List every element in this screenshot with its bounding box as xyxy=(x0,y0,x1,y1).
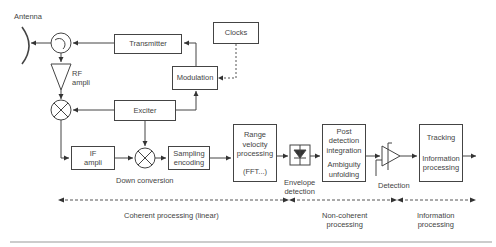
transmitter-box: Transmitter xyxy=(114,34,182,54)
down-conversion-label: Down conversion xyxy=(116,176,174,185)
envelope-detection-label: Envelope detection xyxy=(284,178,315,196)
detection-label: Detection xyxy=(378,181,410,190)
rf-ampli-label: RF ampli xyxy=(72,69,90,87)
noncoherent-processing-label: Non-coherent processing xyxy=(322,211,367,229)
if-ampli-box: IF ampli xyxy=(71,146,115,170)
modulation-box: Modulation xyxy=(172,66,218,90)
range-velocity-box: Range velocity processing (FFT...) xyxy=(233,124,277,182)
clocks-box: Clocks xyxy=(213,22,259,44)
sampling-encoding-box: Sampling encoding xyxy=(168,146,210,170)
information-processing-label: Information processing xyxy=(417,211,455,229)
tracking-box: Tracking Information processing xyxy=(419,124,463,182)
exciter-box: Exciter xyxy=(114,100,176,121)
coherent-processing-label: Coherent processing (linear) xyxy=(124,211,219,220)
post-detection-box: Post detection integration Ambiguity unf… xyxy=(322,124,366,182)
antenna-label: Antenna xyxy=(14,12,42,21)
